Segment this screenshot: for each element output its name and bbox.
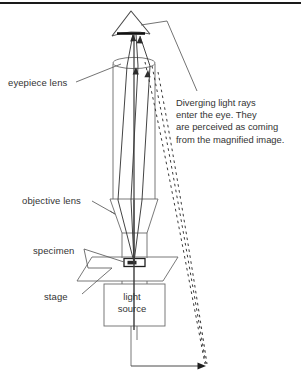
diagram-canvas: eyepiece lens objective lens specimen st… <box>0 0 301 377</box>
base-stem <box>131 326 137 366</box>
eye-symbol <box>112 11 150 36</box>
note-line-1: Diverging light rays <box>176 97 300 109</box>
light-source-label-line1: light <box>104 291 160 303</box>
note-line-3: are perceived as coming <box>176 121 300 133</box>
label-leader-lines <box>76 21 197 294</box>
note-line-4: from the magnified image. <box>176 134 300 146</box>
label-objective-lens: objective lens <box>22 195 81 206</box>
explanatory-note: Diverging light rays enter the eye. They… <box>176 97 300 146</box>
light-source-label-line2: source <box>104 303 160 315</box>
label-eyepiece-lens: eyepiece lens <box>8 77 67 88</box>
label-stage: stage <box>44 291 68 302</box>
leader-stage-joint <box>84 249 112 268</box>
note-line-2: enter the eye. They <box>176 109 300 121</box>
label-specimen: specimen <box>33 245 74 256</box>
microscope-ray-diagram-svg <box>0 0 301 377</box>
magnified-virtual-image-arrow <box>131 363 206 370</box>
leader-eyepiece <box>76 64 121 82</box>
